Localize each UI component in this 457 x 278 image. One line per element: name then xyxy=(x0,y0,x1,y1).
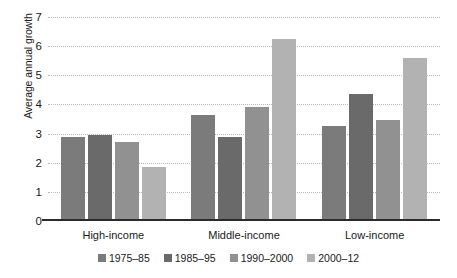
chart-container: Average annual growth 01234567 High-inco… xyxy=(0,0,457,278)
y-axis-tick-label: 0 xyxy=(22,215,42,227)
legend-swatch-icon xyxy=(307,254,315,262)
bar[interactable] xyxy=(272,39,296,221)
x-axis-category-labels: High-incomeMiddle-incomeLow-income xyxy=(48,229,440,245)
bar[interactable] xyxy=(376,120,400,221)
legend-item[interactable]: 1990–2000 xyxy=(230,252,294,264)
bar[interactable] xyxy=(245,107,269,221)
bar[interactable] xyxy=(88,135,112,221)
bars-layer xyxy=(48,17,440,221)
x-axis-line xyxy=(42,219,440,221)
legend-swatch-icon xyxy=(98,254,106,262)
x-axis-category-label: Low-income xyxy=(345,229,404,241)
bar-group xyxy=(48,17,179,221)
bar[interactable] xyxy=(403,58,427,221)
x-axis-category-label: Middle-income xyxy=(208,229,280,241)
y-axis-tick-label: 7 xyxy=(22,11,42,23)
y-axis-tick-label: 5 xyxy=(22,69,42,81)
chart-legend: 1975–851985–951990–20002000–12 xyxy=(0,252,457,264)
y-axis-tick-label: 4 xyxy=(22,98,42,110)
bar[interactable] xyxy=(218,137,242,222)
legend-label: 2000–12 xyxy=(318,252,359,264)
legend-item[interactable]: 2000–12 xyxy=(307,252,359,264)
legend-label: 1990–2000 xyxy=(241,252,294,264)
legend-swatch-icon xyxy=(164,254,172,262)
y-axis-tick-label: 3 xyxy=(22,128,42,140)
bar[interactable] xyxy=(115,142,139,221)
bar-group xyxy=(179,17,310,221)
y-axis-tick-label: 2 xyxy=(22,157,42,169)
legend-item[interactable]: 1975–85 xyxy=(98,252,150,264)
bar-group xyxy=(309,17,440,221)
y-axis-tick-label: 1 xyxy=(22,186,42,198)
bar[interactable] xyxy=(142,167,166,221)
bar[interactable] xyxy=(61,137,85,222)
y-axis-tick-labels: 01234567 xyxy=(22,17,42,221)
y-axis-tick-label: 6 xyxy=(22,40,42,52)
bar[interactable] xyxy=(322,126,346,221)
bar[interactable] xyxy=(191,115,215,221)
legend-swatch-icon xyxy=(230,254,238,262)
bar[interactable] xyxy=(349,94,373,221)
plot-area xyxy=(48,17,440,221)
legend-item[interactable]: 1985–95 xyxy=(164,252,216,264)
x-axis-category-label: High-income xyxy=(82,229,144,241)
legend-label: 1975–85 xyxy=(109,252,150,264)
legend-label: 1985–95 xyxy=(175,252,216,264)
